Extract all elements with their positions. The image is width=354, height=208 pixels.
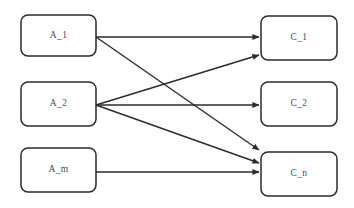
node-c_2[interactable]: C_2 [261, 82, 337, 126]
node-a_m[interactable]: A_m [21, 148, 96, 192]
node-label-a_1: A_1 [50, 30, 68, 40]
edge-arrow-a_1-to-c_n [96, 37, 259, 150]
edge-arrow-a_2-to-c_1 [96, 55, 259, 105]
node-c_n[interactable]: C_n [261, 152, 337, 196]
node-label-c_1: C_1 [290, 32, 307, 42]
node-label-c_n: C_n [290, 168, 307, 178]
node-a_2[interactable]: A_2 [21, 82, 96, 126]
node-label-c_2: C_2 [290, 98, 307, 108]
node-a_1[interactable]: A_1 [21, 15, 96, 56]
edge-arrow-a_2-to-c_n [96, 105, 259, 163]
node-c_1[interactable]: C_1 [261, 16, 337, 60]
diagram-canvas: A_1A_2A_mC_1C_2C_n [0, 0, 354, 208]
node-label-a_2: A_2 [50, 98, 68, 108]
diagram-svg: A_1A_2A_mC_1C_2C_n [0, 0, 354, 208]
node-label-a_m: A_m [48, 164, 68, 174]
edges-layer [96, 37, 259, 172]
